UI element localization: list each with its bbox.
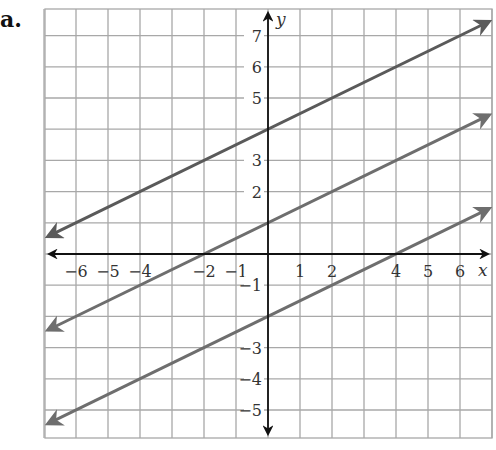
y-tick-label: 2	[252, 183, 262, 202]
y-tick-label: 3	[252, 151, 262, 170]
x-tick-label: 5	[423, 262, 433, 281]
x-tick-label: 2	[327, 262, 337, 281]
y-tick-label: 7	[252, 27, 262, 46]
x-tick-label: −2	[192, 262, 216, 281]
y-tick-label: 5	[252, 89, 262, 108]
y-tick-label: 6	[252, 58, 262, 77]
x-tick-label: 4	[391, 262, 401, 281]
axes	[49, 13, 488, 434]
y-tick-label: −3	[238, 339, 262, 358]
x-tick-label: −5	[96, 262, 120, 281]
y-tick-label: −1	[238, 276, 262, 295]
coordinate-plane: −6−5−4−2−11245676532−1−3−4−5xy	[0, 0, 496, 450]
y-tick-label: −4	[238, 370, 262, 389]
tick-labels: −6−5−4−2−11245676532−1−3−4−5xy	[64, 9, 488, 420]
x-tick-label: 6	[455, 262, 465, 281]
y-tick-label: −5	[238, 401, 262, 420]
x-tick-label: −6	[64, 262, 88, 281]
y-axis-label: y	[275, 9, 286, 29]
x-tick-label: 1	[295, 262, 305, 281]
x-axis-label: x	[478, 260, 488, 280]
x-tick-label: −4	[128, 262, 152, 281]
